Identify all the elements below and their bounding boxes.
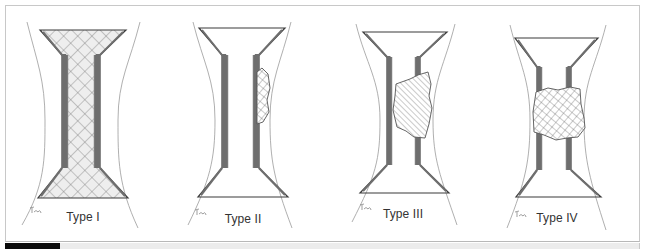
specimen-type-4 — [507, 25, 606, 230]
signature-mark — [30, 207, 41, 213]
wall-band-left — [62, 55, 68, 168]
specimen-type-1 — [22, 22, 140, 228]
defect-patch — [533, 87, 585, 140]
outer-contour-left — [352, 24, 380, 222]
signature-mark — [195, 209, 206, 215]
outer-contour-right — [433, 24, 457, 225]
wall-band-left — [222, 55, 228, 168]
defect-patch — [393, 72, 432, 138]
defect-patch — [257, 68, 270, 124]
outer-contour-right — [584, 25, 606, 230]
specimen-type-3 — [352, 24, 457, 225]
panel-label-type-3: Type III — [383, 207, 423, 221]
signature-mark — [360, 204, 371, 210]
wall-band-left — [387, 57, 392, 165]
defect-hatch — [38, 30, 128, 198]
specimen-type-2 — [188, 22, 292, 228]
panel-label-type-1: Type I — [66, 210, 99, 224]
panel-label-type-2: Type II — [225, 212, 262, 226]
signature-mark — [515, 211, 526, 217]
wall-band-right — [94, 55, 100, 168]
panel-label-type-4: Type IV — [536, 211, 577, 225]
